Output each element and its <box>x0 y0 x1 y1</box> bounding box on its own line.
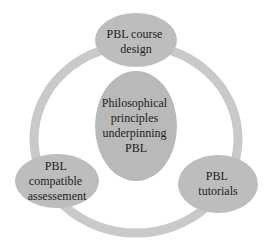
center-line-2: principles <box>111 111 159 125</box>
assessment-line-3: assessement <box>28 189 87 203</box>
node-course-design: PBL course design <box>95 13 177 67</box>
center-node: Philosophical principles underpinning PB… <box>95 71 177 181</box>
course-design-line-2: design <box>120 42 151 56</box>
node-tutorials: PBL tutorials <box>178 155 258 213</box>
assessment-line-1: PBL <box>45 159 67 173</box>
course-design-line-1: PBL course <box>107 27 163 41</box>
tutorials-line-1: PBL <box>206 169 228 183</box>
center-line-4: PBL <box>125 141 147 155</box>
center-line-1: Philosophical <box>102 96 168 110</box>
center-line-3: underpinning <box>103 126 167 140</box>
pbl-cycle-diagram: Philosophical principles underpinning PB… <box>0 0 265 246</box>
tutorials-line-2: tutorials <box>198 184 238 198</box>
assessment-line-2: compatible <box>29 174 82 188</box>
node-assessment: PBL compatible assessement <box>15 154 99 208</box>
